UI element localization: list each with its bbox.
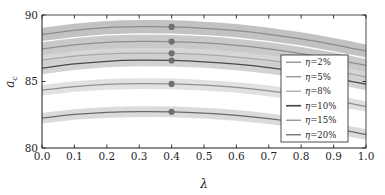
chart-legend: η=2%η=5%η=8%η=10%η=15%η=20% — [281, 55, 348, 142]
y-tick-label: 90 — [25, 9, 38, 21]
data-marker-8% — [169, 50, 175, 56]
x-tick-label: 0.9 — [325, 150, 342, 162]
legend-label-5%: η=5% — [305, 72, 331, 82]
x-tick-label: 0.8 — [293, 150, 310, 162]
x-tick-label: 0.7 — [260, 150, 277, 162]
x-tick-label: 0.5 — [196, 150, 213, 162]
chart-canvas: 0.00.10.20.30.40.50.60.70.80.91.0808590 … — [0, 0, 385, 195]
legend-label-20%: η=20% — [305, 130, 336, 140]
data-marker-2% — [169, 24, 175, 30]
data-marker-20% — [169, 109, 175, 115]
chart-figure: 0.00.10.20.30.40.50.60.70.80.91.0808590 … — [0, 0, 385, 195]
y-axis-title-base: a — [3, 81, 17, 88]
data-marker-5% — [169, 39, 175, 45]
y-axis-title-subscript: c — [10, 76, 19, 81]
x-tick-label: 0.1 — [66, 150, 83, 162]
x-tick-label: 0.6 — [228, 150, 245, 162]
legend-label-2%: η=2% — [305, 57, 331, 67]
y-tick-label: 85 — [25, 75, 38, 87]
y-tick-label: 80 — [25, 142, 38, 154]
x-tick-label: 0.4 — [163, 150, 180, 162]
x-tick-label: 0.3 — [131, 150, 148, 162]
legend-label-15%: η=15% — [305, 115, 336, 125]
x-tick-label: 1.0 — [358, 150, 375, 162]
data-marker-15% — [169, 81, 175, 87]
x-axis-title: λ — [199, 177, 208, 191]
x-tick-label: 0.2 — [98, 150, 115, 162]
legend-label-8%: η=8% — [305, 86, 331, 96]
legend-label-10%: η=10% — [305, 101, 336, 111]
data-marker-10% — [169, 57, 175, 63]
